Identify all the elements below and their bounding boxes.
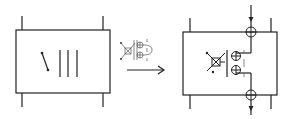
switch-junction-icon [120, 39, 152, 61]
junction-circle-bottom-edge [246, 90, 256, 100]
mini-junction-top [137, 42, 143, 48]
switch-symbol [41, 52, 50, 72]
junction-circle-lower [232, 65, 241, 75]
junction-circle-top-edge [246, 27, 256, 37]
right-block-frame [183, 32, 277, 95]
arrow-down-icon [249, 17, 254, 22]
right-arrow-icon [127, 66, 164, 74]
mini-junction-bottom [137, 52, 143, 58]
cross-switch-mini [120, 42, 135, 60]
junction-circle-upper [232, 51, 241, 61]
mini-loop [143, 45, 152, 55]
left-block-frame [16, 30, 110, 93]
diagram-canvas [0, 0, 292, 119]
arrow-down-icon [249, 106, 254, 111]
right-block [183, 5, 277, 115]
cross-switch-symbol [206, 52, 225, 73]
left-block [16, 16, 110, 107]
